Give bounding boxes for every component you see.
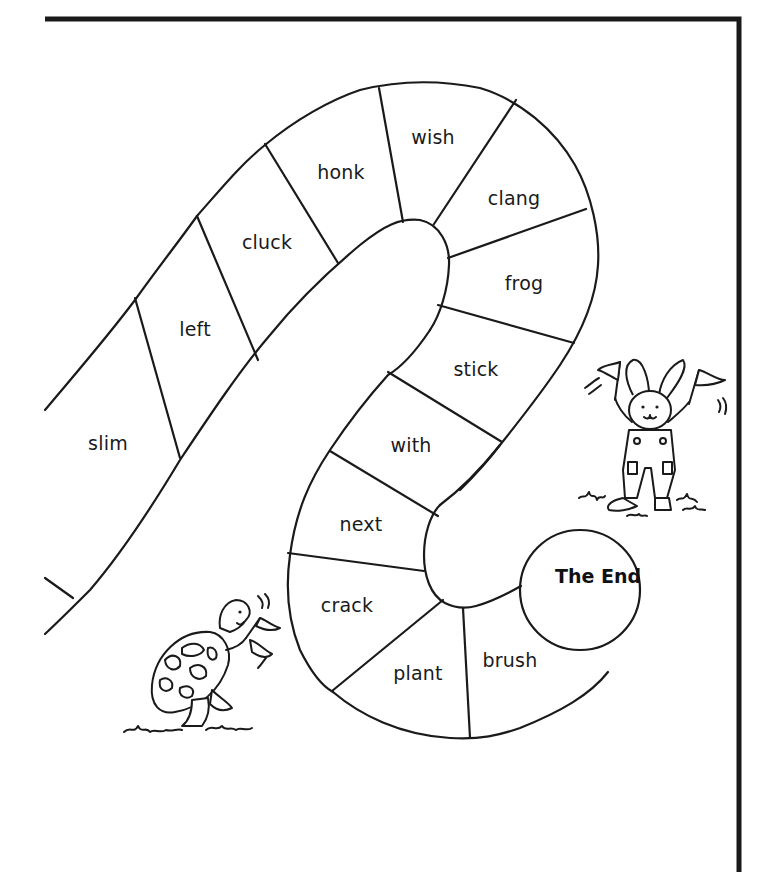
space-crack[interactable]: crack (321, 594, 373, 616)
space-brush[interactable]: brush (483, 649, 538, 671)
space-with[interactable]: with (390, 434, 431, 456)
space-next[interactable]: next (340, 513, 383, 535)
space-left[interactable]: left (179, 318, 211, 340)
space-clang[interactable]: clang (488, 187, 540, 209)
path-s-outer (460, 445, 500, 490)
path-inner-loop (424, 505, 521, 608)
finish-circle[interactable] (520, 530, 640, 650)
finish-label: The End (555, 565, 641, 587)
space-wish[interactable]: wish (411, 126, 455, 148)
space-cluck[interactable]: cluck (242, 231, 292, 253)
space-slim[interactable]: slim (88, 432, 128, 454)
space-stick[interactable]: stick (453, 358, 498, 380)
rabbit-icon (579, 360, 726, 516)
path-inner-edge-upper (45, 220, 449, 634)
space-plant[interactable]: plant (393, 662, 442, 684)
space-dividers (45, 88, 586, 738)
space-frog[interactable]: frog (505, 272, 544, 294)
space-honk[interactable]: honk (317, 161, 365, 183)
turtle-icon (124, 594, 280, 732)
